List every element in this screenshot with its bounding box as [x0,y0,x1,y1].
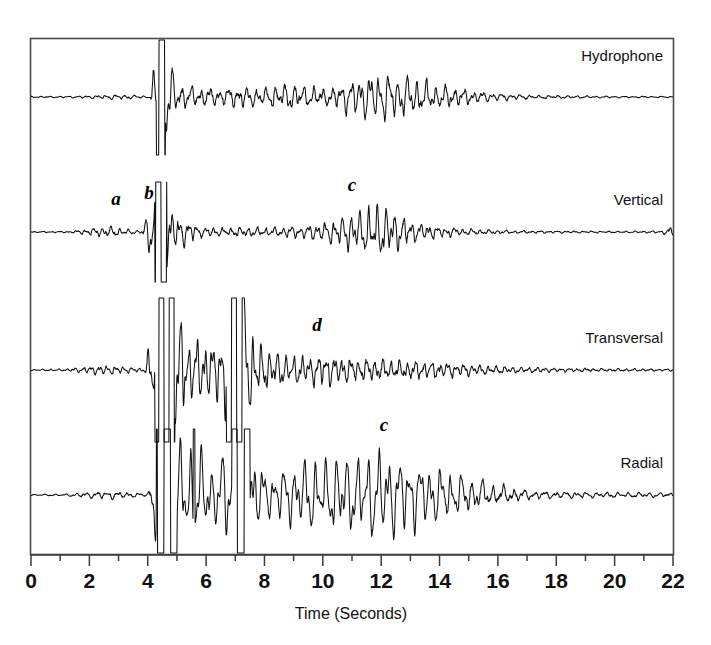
x-axis-tick-label: 4 [142,569,154,592]
x-axis-tick-label: 2 [84,569,96,592]
x-axis-tick-label: 12 [370,569,393,592]
channel-label-transversal: Transversal [585,329,663,346]
seismogram-figure: 0246810121416182022 HydrophoneVerticalTr… [0,0,711,645]
x-axis-tick-label: 20 [603,569,626,592]
phase-label-c: c [380,414,389,435]
channel-label-hydrophone: Hydrophone [581,47,663,64]
phase-label-a: a [111,188,121,209]
phase-label-c: c [348,174,357,195]
x-axis-tick-label: 18 [545,569,569,592]
x-axis-title: Time (Seconds) [295,605,407,622]
x-axis-tick-label: 6 [200,569,212,592]
x-axis-tick-label: 16 [486,569,509,592]
phase-label-b: b [144,182,154,203]
channel-label-vertical: Vertical [614,191,663,208]
x-axis-tick-label: 10 [311,569,334,592]
x-axis-tick-label: 0 [25,569,37,592]
seismogram-plot: 0246810121416182022 HydrophoneVerticalTr… [0,0,711,645]
x-axis-tick-label: 8 [259,569,271,592]
phase-label-d: d [312,314,322,335]
x-axis-tick-label: 14 [428,569,452,592]
x-axis-tick-label: 22 [661,569,684,592]
channel-label-radial: Radial [620,454,663,471]
